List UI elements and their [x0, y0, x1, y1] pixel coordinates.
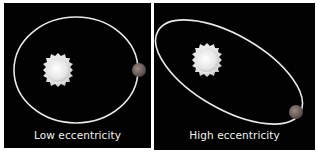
star-icon — [43, 53, 73, 87]
high-eccentricity-caption: High eccentricity — [154, 129, 315, 141]
low-eccentricity-diagram — [4, 3, 151, 148]
low-eccentricity-panel: Low eccentricity — [4, 3, 151, 148]
planet-icon — [132, 63, 146, 77]
high-eccentricity-diagram — [154, 3, 315, 150]
orbit-path — [154, 3, 315, 145]
low-eccentricity-caption: Low eccentricity — [4, 129, 151, 141]
orbit-path — [14, 17, 138, 123]
high-eccentricity-panel: High eccentricity — [154, 3, 315, 150]
planet-icon — [289, 105, 303, 119]
star-icon — [192, 43, 222, 77]
